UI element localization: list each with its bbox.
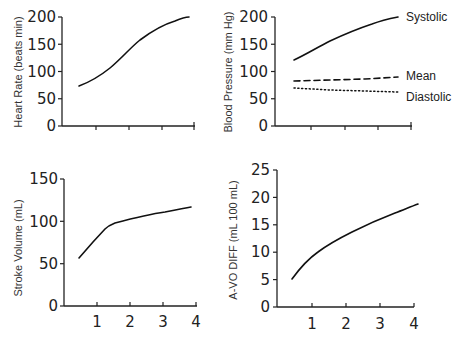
- panel-heart-rate: Heart Rate (beats min) 0 50 100 150 200: [12, 8, 195, 135]
- svg-text:50: 50: [37, 90, 56, 108]
- svg-text:200: 200: [27, 8, 56, 26]
- x-tick-labels: 1 2 3 4: [307, 315, 419, 333]
- systolic-curve: [294, 17, 398, 60]
- panel-avo2-diff: A-VO DIFF (mL 100 mL) 0 5 10 15 20 25 1 …: [227, 161, 419, 333]
- diastolic-label: Diastolic: [406, 90, 451, 104]
- y-axis-label: Heart Rate (beats min): [12, 16, 24, 127]
- svg-text:100: 100: [29, 213, 58, 231]
- systolic-label: Systolic: [406, 10, 447, 24]
- svg-text:3: 3: [375, 315, 385, 333]
- svg-text:0: 0: [260, 298, 270, 316]
- stroke-volume-curve: [79, 207, 191, 258]
- x-tick-labels: 1 2 3 4: [92, 313, 201, 331]
- svg-text:2: 2: [341, 315, 351, 333]
- svg-text:3: 3: [158, 313, 168, 331]
- y-tick-labels: 0 50 100 150 200: [27, 8, 56, 135]
- svg-text:0: 0: [46, 117, 56, 135]
- svg-text:0: 0: [258, 117, 268, 135]
- svg-text:100: 100: [239, 63, 268, 81]
- svg-text:150: 150: [29, 170, 58, 188]
- svg-text:200: 200: [239, 8, 268, 26]
- y-axis-label: Blood Pressure (mm Hg): [222, 11, 234, 132]
- svg-text:10: 10: [251, 243, 270, 261]
- svg-text:20: 20: [251, 189, 270, 207]
- avo2-diff-curve: [292, 204, 418, 279]
- panel-stroke-volume: Stroke Volume (mL) 0 50 100 150 1 2 3 4: [12, 170, 201, 331]
- svg-text:150: 150: [239, 36, 268, 54]
- y-axis-label: Stroke Volume (mL): [12, 199, 24, 296]
- y-tick-labels: 0 5 10 15 20 25: [251, 161, 270, 316]
- diastolic-curve: [294, 88, 398, 92]
- svg-text:4: 4: [191, 313, 201, 331]
- svg-text:2: 2: [125, 313, 135, 331]
- y-tick-labels: 0 50 100 150: [29, 170, 58, 315]
- svg-text:4: 4: [409, 315, 419, 333]
- svg-text:1: 1: [307, 315, 317, 333]
- svg-text:25: 25: [251, 161, 270, 179]
- svg-text:0: 0: [48, 297, 58, 315]
- figure: Heart Rate (beats min) 0 50 100 150 200 …: [0, 0, 455, 337]
- y-tick-labels: 0 50 100 150 200: [239, 8, 268, 135]
- mean-curve: [294, 77, 398, 81]
- mean-label: Mean: [406, 69, 436, 83]
- panel-blood-pressure: Blood Pressure (mm Hg) 0 50 100 150 200 …: [222, 8, 451, 135]
- svg-text:5: 5: [260, 271, 270, 289]
- svg-text:100: 100: [27, 63, 56, 81]
- svg-text:50: 50: [249, 90, 268, 108]
- svg-text:50: 50: [39, 255, 58, 273]
- svg-text:1: 1: [92, 313, 102, 331]
- svg-text:150: 150: [27, 36, 56, 54]
- y-axis-label: A-VO DIFF (mL 100 mL): [227, 180, 239, 299]
- svg-text:15: 15: [251, 216, 270, 234]
- heart-rate-curve: [79, 17, 189, 86]
